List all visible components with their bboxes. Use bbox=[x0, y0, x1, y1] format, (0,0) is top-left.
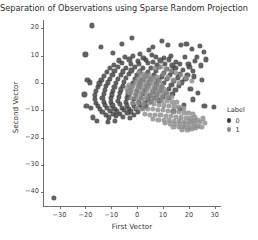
x-tick-label: 0 bbox=[125, 211, 149, 219]
scatter-point bbox=[121, 114, 126, 119]
x-tick-mark bbox=[189, 206, 190, 209]
scatter-point bbox=[189, 46, 194, 51]
x-tick-label: 10 bbox=[151, 211, 175, 219]
x-tick-mark bbox=[137, 206, 138, 209]
y-tick-label: −20 bbox=[25, 133, 39, 141]
y-tick-mark bbox=[41, 83, 44, 84]
scatter-point bbox=[178, 42, 183, 47]
x-tick-mark bbox=[60, 206, 61, 209]
scatter-point bbox=[89, 23, 94, 28]
legend-item[interactable]: 0 bbox=[227, 116, 245, 125]
x-tick-mark bbox=[85, 206, 86, 209]
scatter-point bbox=[190, 68, 195, 73]
x-tick-mark bbox=[163, 206, 164, 209]
x-axis-line bbox=[43, 206, 221, 207]
legend-item-label: 1 bbox=[235, 126, 239, 134]
scatter-point bbox=[83, 52, 88, 57]
x-tick-label: −10 bbox=[99, 211, 123, 219]
scatter-point bbox=[94, 118, 99, 123]
scatter-point bbox=[203, 57, 208, 62]
scatter-point bbox=[212, 104, 217, 109]
y-tick-mark bbox=[41, 28, 44, 29]
scatter-point bbox=[190, 97, 195, 102]
x-tick-mark bbox=[215, 206, 216, 209]
scatter-point bbox=[202, 103, 207, 108]
scatter-point bbox=[159, 38, 164, 43]
x-tick-label: −30 bbox=[48, 211, 72, 219]
legend-marker-icon bbox=[227, 127, 231, 131]
x-axis-label: First Vector bbox=[44, 222, 220, 231]
scatter-point bbox=[129, 35, 134, 40]
scatter-point bbox=[87, 80, 92, 85]
legend-title: Label bbox=[227, 106, 245, 114]
scatter-point bbox=[105, 119, 110, 124]
chart-title: Separation of Observations using Sparse … bbox=[0, 3, 248, 13]
y-tick-mark bbox=[41, 56, 44, 57]
y-tick-label: 0 bbox=[35, 78, 39, 86]
scatter-point bbox=[199, 125, 204, 130]
scatter-point bbox=[88, 105, 93, 110]
y-tick-mark bbox=[41, 165, 44, 166]
scatter-point bbox=[51, 195, 56, 200]
scatter-point bbox=[188, 86, 193, 91]
scatter-point bbox=[182, 55, 187, 60]
chart-figure: Separation of Observations using Sparse … bbox=[0, 0, 258, 240]
legend-item-label: 0 bbox=[235, 117, 239, 125]
scatter-point bbox=[189, 78, 194, 83]
x-tick-label: 30 bbox=[203, 211, 227, 219]
scatter-point bbox=[197, 43, 202, 48]
scatter-point bbox=[198, 63, 203, 68]
legend-item[interactable]: 1 bbox=[227, 125, 245, 134]
scatter-point bbox=[201, 50, 206, 55]
legend-entries: 01 bbox=[227, 116, 245, 134]
scatter-point bbox=[167, 57, 172, 62]
x-tick-mark bbox=[111, 206, 112, 209]
scatter-point bbox=[127, 115, 132, 120]
legend-marker-icon bbox=[227, 118, 231, 122]
plot-area: 20100−10−20−30−40 −30−20−100102030 bbox=[44, 20, 220, 206]
x-tick-label: 20 bbox=[177, 211, 201, 219]
scatter-point bbox=[119, 41, 124, 46]
legend: Label 01 bbox=[227, 106, 245, 134]
scatter-point bbox=[193, 125, 198, 130]
y-axis-label: Second Vector bbox=[11, 60, 20, 156]
scatter-point bbox=[166, 42, 171, 47]
y-tick-label: −30 bbox=[25, 160, 39, 168]
scatter-point bbox=[110, 50, 115, 55]
scatter-point bbox=[112, 119, 117, 124]
y-tick-label: 10 bbox=[31, 51, 39, 59]
scatter-point bbox=[98, 44, 103, 49]
scatter-point bbox=[82, 92, 87, 97]
scatter-point bbox=[199, 78, 204, 83]
scatter-point bbox=[150, 44, 155, 49]
y-tick-label: −10 bbox=[25, 105, 39, 113]
scatter-point bbox=[195, 90, 200, 95]
scatter-point bbox=[194, 55, 199, 60]
scatter-point bbox=[184, 41, 189, 46]
y-tick-mark bbox=[41, 192, 44, 193]
x-tick-label: −20 bbox=[73, 211, 97, 219]
y-tick-label: 20 bbox=[31, 23, 39, 31]
scatter-point bbox=[145, 60, 150, 65]
y-tick-label: −40 bbox=[25, 187, 39, 195]
y-tick-mark bbox=[41, 138, 44, 139]
y-tick-mark bbox=[41, 110, 44, 111]
